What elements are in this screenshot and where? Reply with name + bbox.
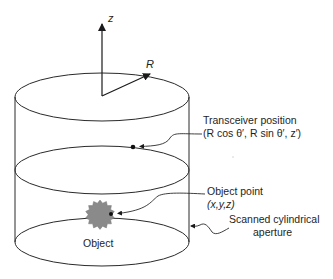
transceiver-leader-line — [140, 134, 202, 147]
aperture-label-line2: aperture — [253, 226, 292, 239]
object-point-dot — [109, 212, 113, 216]
stray-mark — [232, 156, 234, 158]
transceiver-dot — [131, 145, 136, 150]
r-radius-arrow — [102, 74, 150, 96]
aperture-leader-line — [191, 224, 229, 234]
object-label: Object — [83, 237, 113, 250]
object-point-title: Object point — [207, 185, 263, 198]
z-axis-label: z — [108, 12, 114, 25]
transceiver-position-title: Transceiver position — [203, 114, 297, 127]
transceiver-position-coords: (R cos θ′, R sin θ′, z′) — [203, 127, 301, 140]
object-point-coords: (x,y,z) — [207, 198, 235, 211]
r-axis-label: R — [146, 58, 154, 71]
aperture-label-line1: Scanned cylindrical — [229, 213, 319, 226]
object-point-leader-line — [118, 193, 205, 213]
scan-plane-ellipse — [15, 146, 189, 194]
